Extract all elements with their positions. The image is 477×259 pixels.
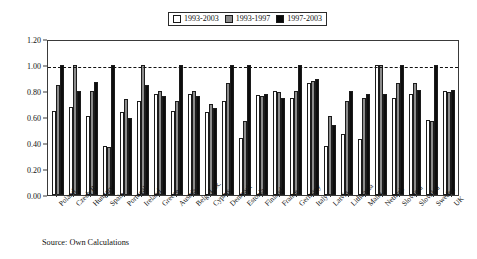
bar-group <box>287 41 304 195</box>
x-axis-tick-mark <box>176 194 177 197</box>
y-axis-tick-label: 1.20 <box>27 36 41 45</box>
legend-label-0: 1993-2003 <box>184 14 219 24</box>
bar <box>315 79 319 195</box>
legend-label-1: 1993-1997 <box>236 14 271 24</box>
chart-figure: 1993-2003 1993-1997 1997-2003 0.000.200.… <box>0 0 477 259</box>
bar-group <box>406 41 423 195</box>
bar-group <box>117 41 134 195</box>
bar <box>145 85 149 196</box>
bar-group <box>151 41 168 195</box>
chart-legend: 1993-2003 1993-1997 1997-2003 <box>168 12 327 26</box>
x-axis-tick-mark <box>73 194 74 197</box>
x-axis-tick-mark <box>107 194 108 197</box>
bar <box>417 90 421 195</box>
y-axis-tick-label: 1.00 <box>27 62 41 71</box>
x-axis-label-cell: Cyprus <box>202 197 219 243</box>
bar-group <box>219 41 236 195</box>
x-axis-tick-mark <box>416 194 417 197</box>
bar-group <box>236 41 253 195</box>
bar <box>196 96 200 195</box>
bar-group <box>372 41 389 195</box>
x-axis-label-cell: Latvia <box>322 197 339 243</box>
bar <box>179 65 183 195</box>
bars-container <box>48 41 458 195</box>
bar-group <box>83 41 100 195</box>
bar <box>264 94 268 195</box>
x-axis-tick-mark <box>296 194 297 197</box>
x-axis-tick-mark <box>159 194 160 197</box>
bar-group <box>202 41 219 195</box>
x-axis-label-cell: Slovenia <box>390 197 407 243</box>
x-axis-label-cell: Ireland <box>133 197 150 243</box>
white-square-icon <box>173 15 181 23</box>
bar-group <box>440 41 457 195</box>
y-axis-tick-label: 0.80 <box>27 88 41 97</box>
x-axis-label-cell: Finland <box>253 197 270 243</box>
x-axis-tick-mark <box>279 194 280 197</box>
gray-square-icon <box>225 15 233 23</box>
bar-group <box>134 41 151 195</box>
x-axis-tick-mark <box>90 194 91 197</box>
bar <box>451 90 455 195</box>
x-axis-tick-mark <box>433 194 434 197</box>
x-axis-label-cell: Netherl. <box>373 197 390 243</box>
bar <box>247 65 251 195</box>
x-axis-tick-mark <box>56 194 57 197</box>
bar <box>60 65 64 195</box>
black-square-icon <box>276 15 284 23</box>
bar-group <box>253 41 270 195</box>
x-axis-label-cell: UK <box>442 197 459 243</box>
x-axis-label-cell: Hungary <box>81 197 98 243</box>
y-axis: 0.000.200.400.600.801.001.20 <box>0 40 47 196</box>
legend-entry-1: 1993-1997 <box>225 14 271 24</box>
x-axis-label-cell: Lithuania <box>339 197 356 243</box>
x-axis-tick-mark <box>313 194 314 197</box>
x-axis-label-cell: Belg.-Lux. <box>184 197 201 243</box>
x-axis-tick-mark <box>382 194 383 197</box>
x-axis-label-cell: Slovakia <box>408 197 425 243</box>
bar-group <box>304 41 321 195</box>
bar-group <box>168 41 185 195</box>
bar-group <box>49 41 66 195</box>
bar <box>111 65 115 195</box>
y-axis-tick-label: 0.20 <box>27 166 41 175</box>
y-axis-tick-label: 0.00 <box>27 192 41 201</box>
x-axis-label-cell: Germany <box>287 197 304 243</box>
x-axis-label-cell: Malta <box>356 197 373 243</box>
x-axis-tick-mark <box>365 194 366 197</box>
y-axis-tick-label: 0.60 <box>27 114 41 123</box>
bar <box>162 96 166 195</box>
plot-area <box>47 40 459 196</box>
x-axis-label-cell: Spain <box>99 197 116 243</box>
x-axis-tick-mark <box>141 194 142 197</box>
legend-label-2: 1997-2003 <box>287 14 322 24</box>
x-axis-tick-mark <box>451 194 452 197</box>
x-axis-labels: PolandCzech R.HungarySpainPortugalIrelan… <box>47 197 459 243</box>
x-axis-label-cell: France <box>270 197 287 243</box>
bar-group <box>100 41 117 195</box>
bar-group <box>389 41 406 195</box>
x-axis-label-cell: Poland <box>47 197 64 243</box>
x-axis-tick-mark <box>227 194 228 197</box>
bar-group <box>321 41 338 195</box>
x-axis-tick-mark <box>330 194 331 197</box>
x-axis-tick-mark <box>399 194 400 197</box>
x-axis-label-cell: Austria <box>167 197 184 243</box>
bar <box>332 125 336 195</box>
bar <box>383 94 387 195</box>
bar-group <box>270 41 287 195</box>
bar-group <box>423 41 440 195</box>
x-axis-tick-label: UK <box>451 194 465 208</box>
x-axis-label-cell: Greece <box>150 197 167 243</box>
x-axis-label-cell: Estonia <box>236 197 253 243</box>
x-axis-tick-mark <box>348 194 349 197</box>
bar <box>77 91 81 195</box>
bar-group <box>66 41 83 195</box>
bar <box>281 98 285 196</box>
x-axis-label-cell: Sweden <box>425 197 442 243</box>
bar <box>366 94 370 195</box>
x-axis-label-cell: Denmark <box>219 197 236 243</box>
x-axis-tick-mark <box>262 194 263 197</box>
x-axis-tick-mark <box>244 194 245 197</box>
reference-line <box>48 67 458 68</box>
